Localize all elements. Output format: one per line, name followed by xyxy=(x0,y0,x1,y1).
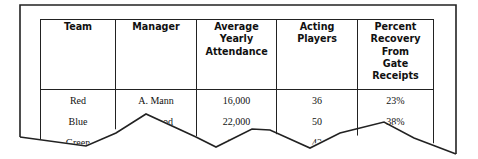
torn-table-figure: Team Manager Average Yearly Attendance A… xyxy=(0,0,478,159)
torn-edge-frame xyxy=(0,0,478,159)
torn-mask-lower xyxy=(0,114,478,159)
